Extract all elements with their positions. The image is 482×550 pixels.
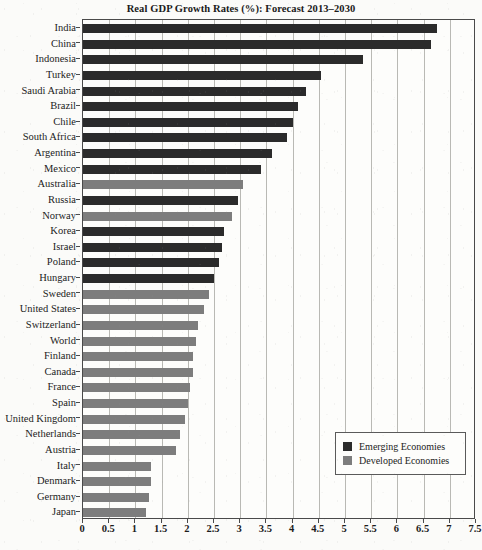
bar-row — [83, 504, 474, 521]
bar-spain — [83, 399, 188, 408]
x-label-7: 7 — [446, 523, 451, 534]
y-label-japan: Japan — [52, 503, 76, 520]
x-label-5: 5 — [341, 523, 346, 534]
bar-argentina — [83, 149, 272, 158]
bar-france — [83, 383, 190, 392]
bar-israel — [83, 243, 222, 252]
y-tick — [76, 42, 80, 43]
chart-legend: Emerging EconomiesDeveloped Economies — [335, 432, 466, 475]
x-label-5.5: 5.5 — [364, 523, 377, 534]
y-tick — [76, 136, 80, 137]
legend-swatch-emerging — [343, 442, 352, 451]
y-tick — [76, 152, 80, 153]
y-tick — [76, 324, 80, 325]
bar-japan — [83, 508, 146, 517]
bar-united-states — [83, 305, 204, 314]
bar-world — [83, 337, 196, 346]
x-label-0: 0 — [79, 523, 84, 534]
y-tick — [76, 433, 80, 434]
bar-netherlands — [83, 430, 180, 439]
legend-item-emerging: Emerging Economies — [343, 441, 458, 452]
y-tick — [76, 496, 80, 497]
y-tick — [76, 308, 80, 309]
y-tick — [76, 89, 80, 90]
y-tick — [76, 386, 80, 387]
y-tick — [76, 58, 80, 59]
legend-item-developed: Developed Economies — [343, 455, 458, 466]
legend-label: Developed Economies — [359, 455, 449, 466]
bar-hungary — [83, 274, 214, 283]
x-label-1.5: 1.5 — [154, 523, 167, 534]
bar-germany — [83, 493, 149, 502]
bar-brazil — [83, 102, 298, 111]
x-label-3: 3 — [237, 523, 242, 534]
y-tick — [76, 511, 80, 512]
bar-saudi-arabia — [83, 87, 306, 96]
y-tick — [76, 167, 80, 168]
x-label-3.5: 3.5 — [259, 523, 272, 534]
y-tick — [76, 214, 80, 215]
x-axis-labels: 00.511.522.533.544.555.566.577.5 — [0, 523, 482, 543]
y-tick — [76, 277, 80, 278]
bar-mexico — [83, 165, 261, 174]
x-label-6.5: 6.5 — [416, 523, 429, 534]
page-title: Real GDP Growth Rates (%): Forecast 2013… — [0, 3, 482, 14]
y-tick — [76, 27, 80, 28]
x-label-7.5: 7.5 — [468, 523, 481, 534]
bar-denmark — [83, 477, 151, 486]
y-tick — [76, 371, 80, 372]
bar-united-kingdom — [83, 415, 185, 424]
x-label-6: 6 — [394, 523, 399, 534]
y-tick — [76, 449, 80, 450]
bar-switzerland — [83, 321, 198, 330]
bar-norway — [83, 212, 232, 221]
legend-swatch-developed — [343, 456, 352, 465]
x-label-4.5: 4.5 — [311, 523, 324, 534]
y-tick — [76, 105, 80, 106]
bar-australia — [83, 180, 243, 189]
x-label-2.5: 2.5 — [206, 523, 219, 534]
y-tick — [76, 230, 80, 231]
bar-canada — [83, 368, 193, 377]
bar-india — [83, 24, 437, 33]
bar-korea — [83, 227, 224, 236]
x-label-4: 4 — [289, 523, 294, 534]
bar-italy — [83, 462, 151, 471]
y-tick — [76, 183, 80, 184]
bar-turkey — [83, 71, 321, 80]
bar-russia — [83, 196, 238, 205]
x-label-1: 1 — [132, 523, 137, 534]
legend-label: Emerging Economies — [359, 441, 445, 452]
y-tick — [76, 199, 80, 200]
y-tick — [76, 74, 80, 75]
y-tick — [76, 261, 80, 262]
y-axis-labels: IndiaChinaIndonesiaTurkeySaudi ArabiaBra… — [0, 19, 76, 519]
y-tick — [76, 339, 80, 340]
y-tick — [76, 480, 80, 481]
y-tick — [76, 292, 80, 293]
y-tick — [76, 121, 80, 122]
bar-poland — [83, 258, 219, 267]
y-tick — [76, 246, 80, 247]
y-tick — [76, 464, 80, 465]
x-label-0.5: 0.5 — [102, 523, 115, 534]
y-tick — [76, 417, 80, 418]
bar-south-africa — [83, 133, 287, 142]
bar-chile — [83, 118, 293, 127]
chart-page: Real GDP Growth Rates (%): Forecast 2013… — [0, 0, 482, 550]
bar-sweden — [83, 290, 209, 299]
y-tick — [76, 402, 80, 403]
x-label-2: 2 — [184, 523, 189, 534]
bar-austria — [83, 446, 176, 455]
y-tick — [76, 355, 80, 356]
bar-indonesia — [83, 55, 363, 64]
bar-finland — [83, 352, 193, 361]
bar-china — [83, 40, 431, 49]
